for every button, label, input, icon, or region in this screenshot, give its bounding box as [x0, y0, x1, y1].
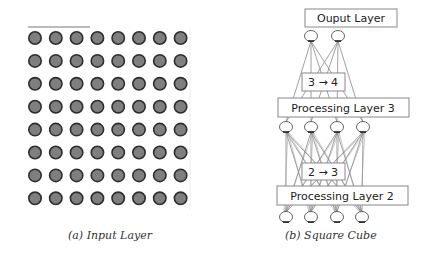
- input-node: [70, 32, 82, 44]
- layer2-node: [356, 212, 369, 223]
- input-node-grid: [29, 32, 187, 205]
- input-node: [70, 146, 82, 158]
- input-layer-panel: [28, 27, 190, 210]
- output-node: [332, 31, 345, 42]
- square-cube-panel: Ouput Layer 3 → 4 Processing Layer 3 2 →…: [277, 9, 409, 223]
- input-node: [29, 123, 41, 135]
- input-node: [154, 55, 166, 67]
- input-node: [174, 101, 186, 113]
- figure-canvas: Ouput Layer 3 → 4 Processing Layer 3 2 →…: [0, 0, 442, 259]
- input-node: [91, 101, 103, 113]
- input-node: [29, 55, 41, 67]
- transition-2-3-label: 2 → 3: [308, 166, 338, 179]
- input-node: [112, 192, 124, 204]
- input-node: [91, 32, 103, 44]
- input-node: [91, 78, 103, 90]
- input-node: [29, 78, 41, 90]
- layer3-node: [331, 122, 344, 133]
- input-node: [91, 55, 103, 67]
- layer2-node: [305, 212, 318, 223]
- input-node: [112, 55, 124, 67]
- input-node: [174, 55, 186, 67]
- input-node: [112, 78, 124, 90]
- input-node: [174, 146, 186, 158]
- input-node: [133, 123, 145, 135]
- input-node: [133, 55, 145, 67]
- input-node: [154, 169, 166, 181]
- input-node: [50, 192, 62, 204]
- input-node: [91, 192, 103, 204]
- input-node: [154, 192, 166, 204]
- processing-layer-3-label: Processing Layer 3: [291, 102, 394, 115]
- input-node: [174, 169, 186, 181]
- input-node: [154, 32, 166, 44]
- layer2-node: [331, 212, 344, 223]
- input-node: [112, 32, 124, 44]
- input-node: [154, 146, 166, 158]
- input-node: [133, 101, 145, 113]
- input-node: [112, 169, 124, 181]
- layer3-node: [280, 122, 293, 133]
- input-node: [174, 32, 186, 44]
- output-node: [305, 31, 318, 42]
- input-node: [154, 78, 166, 90]
- input-node: [174, 123, 186, 135]
- layer3-node: [357, 122, 370, 133]
- processing-layer-2-label: Processing Layer 2: [290, 190, 393, 203]
- caption-input-layer: (a) Input Layer: [68, 229, 152, 242]
- input-node: [133, 146, 145, 158]
- input-node: [50, 123, 62, 135]
- input-node: [112, 146, 124, 158]
- input-node: [174, 78, 186, 90]
- input-node: [133, 192, 145, 204]
- input-node: [112, 101, 124, 113]
- input-node: [70, 123, 82, 135]
- input-node: [29, 32, 41, 44]
- layer2-node: [280, 212, 293, 223]
- input-node: [133, 78, 145, 90]
- input-node: [112, 123, 124, 135]
- input-node: [70, 192, 82, 204]
- layer3-node: [305, 122, 318, 133]
- input-node: [50, 101, 62, 113]
- input-node: [70, 169, 82, 181]
- input-node: [50, 55, 62, 67]
- input-node: [29, 192, 41, 204]
- input-node: [133, 32, 145, 44]
- transition-3-4-label: 3 → 4: [308, 76, 338, 89]
- input-node: [174, 192, 186, 204]
- input-node: [91, 123, 103, 135]
- input-node: [133, 169, 145, 181]
- input-node: [50, 78, 62, 90]
- input-node: [154, 101, 166, 113]
- input-node: [70, 55, 82, 67]
- input-node: [154, 123, 166, 135]
- input-node: [29, 101, 41, 113]
- input-node: [70, 101, 82, 113]
- input-node: [50, 32, 62, 44]
- input-node: [50, 146, 62, 158]
- output-layer-label: Ouput Layer: [317, 12, 386, 25]
- input-node: [91, 146, 103, 158]
- input-node: [50, 169, 62, 181]
- input-node: [29, 169, 41, 181]
- input-node: [91, 169, 103, 181]
- input-node: [70, 78, 82, 90]
- caption-square-cube: (b) Square Cube: [285, 229, 377, 242]
- input-node: [29, 146, 41, 158]
